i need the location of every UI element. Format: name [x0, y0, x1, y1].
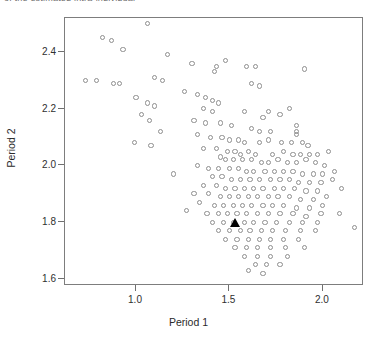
data-point — [201, 146, 206, 151]
data-point — [277, 211, 282, 216]
data-point — [109, 38, 114, 43]
data-point — [147, 118, 152, 123]
data-point — [232, 245, 237, 250]
data-point — [298, 152, 303, 157]
data-point — [257, 129, 262, 134]
data-point — [165, 52, 170, 57]
data-point — [182, 89, 187, 94]
data-point — [307, 152, 312, 157]
data-point — [305, 143, 310, 148]
data-point — [210, 98, 215, 103]
data-point — [246, 237, 251, 242]
data-point — [251, 186, 256, 191]
data-point — [324, 194, 329, 199]
data-point — [296, 180, 301, 185]
data-point — [203, 120, 208, 125]
data-point — [313, 228, 318, 233]
data-point — [227, 228, 232, 233]
data-point — [229, 123, 234, 128]
data-point — [242, 109, 247, 114]
data-point — [274, 220, 279, 225]
y-tick-label: 1.6 — [42, 272, 56, 283]
data-point — [191, 191, 196, 196]
data-point — [270, 228, 275, 233]
data-point — [275, 157, 280, 162]
data-point — [270, 203, 275, 208]
data-point — [152, 75, 157, 80]
highlighted-data-point — [230, 218, 240, 227]
data-point — [210, 109, 215, 114]
data-point — [262, 220, 267, 225]
data-point — [234, 211, 239, 216]
data-point — [214, 146, 219, 151]
y-tick-mark — [58, 108, 64, 109]
data-point — [225, 211, 230, 216]
data-point — [152, 103, 157, 108]
data-point — [272, 186, 277, 191]
data-point — [287, 220, 292, 225]
data-point — [225, 149, 230, 154]
data-point — [133, 95, 138, 100]
scatter-plot-figure: 1.61.82.02.22.4 1.01.52.0 Period 2 Perio… — [0, 0, 377, 344]
data-point — [214, 64, 219, 69]
data-point — [322, 163, 327, 168]
data-point — [302, 66, 307, 71]
data-point — [195, 92, 200, 97]
data-point — [272, 169, 277, 174]
data-point — [201, 106, 206, 111]
data-point — [290, 152, 295, 157]
data-point — [139, 112, 144, 117]
data-point — [247, 228, 252, 233]
data-point — [216, 211, 221, 216]
data-point — [223, 157, 228, 162]
data-point — [287, 106, 292, 111]
data-point — [221, 220, 226, 225]
data-point — [294, 123, 299, 128]
x-tick-label: 2.0 — [315, 294, 329, 305]
data-point — [296, 237, 301, 242]
data-point — [268, 237, 273, 242]
data-point — [195, 163, 200, 168]
data-point — [307, 205, 312, 210]
data-point — [257, 237, 262, 242]
data-point — [223, 58, 228, 63]
data-point — [206, 191, 211, 196]
data-point — [231, 203, 236, 208]
data-point — [148, 143, 153, 148]
x-tick-label: 1.5 — [221, 294, 235, 305]
data-point — [298, 228, 303, 233]
data-point — [232, 186, 237, 191]
data-point — [260, 271, 265, 276]
data-point — [242, 254, 247, 259]
data-point — [249, 81, 254, 86]
data-point — [212, 69, 217, 74]
data-point — [315, 220, 320, 225]
data-point — [268, 129, 273, 134]
data-point — [253, 64, 258, 69]
data-point — [268, 254, 273, 259]
data-point — [255, 245, 260, 250]
data-point — [264, 262, 269, 267]
data-point — [268, 177, 273, 182]
data-point — [303, 214, 308, 219]
data-point — [260, 115, 265, 120]
data-point — [249, 203, 254, 208]
data-point — [257, 177, 262, 182]
data-point — [240, 203, 245, 208]
data-point — [283, 245, 288, 250]
plot-area — [64, 17, 363, 285]
data-point — [231, 157, 236, 162]
data-point — [242, 220, 247, 225]
data-point — [100, 35, 105, 40]
data-point — [253, 152, 258, 157]
data-point — [191, 118, 196, 123]
y-tick-mark — [58, 51, 64, 52]
data-point — [257, 140, 262, 145]
y-tick-label: 2.0 — [42, 159, 56, 170]
data-point — [292, 186, 297, 191]
data-point — [332, 169, 337, 174]
data-point — [255, 194, 260, 199]
data-point — [197, 200, 202, 205]
data-point — [216, 100, 221, 105]
data-point — [330, 177, 335, 182]
